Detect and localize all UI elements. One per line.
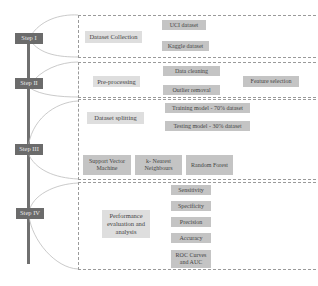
svm-box: Support Vector Machine xyxy=(83,155,131,175)
testing-model-box: Testing model - 30% dataset xyxy=(165,121,250,131)
feature-selection-box: Feature selection xyxy=(243,76,299,87)
roc-auc-box: ROC Curves and AUC xyxy=(171,250,211,268)
pre-processing-box: Pre-processing xyxy=(93,76,140,87)
dataset-splitting-box: Dataset splitting xyxy=(87,112,144,124)
step-3-label: Step III xyxy=(15,144,43,155)
performance-evaluation-box: Performance evaluation and analysis xyxy=(102,210,150,238)
specificity-box: Specificity xyxy=(171,201,211,211)
uci-dataset-box: UCI dataset xyxy=(162,20,206,30)
kaggle-dataset-box: Kaggle dataset xyxy=(162,41,209,51)
precision-box: Precision xyxy=(171,217,211,227)
dataset-collection-box: Dataset Collection xyxy=(85,31,142,43)
data-cleaning-box: Data cleaning xyxy=(163,66,220,76)
step-2-label: Step II xyxy=(15,78,43,89)
training-model-box: Training model - 70% dataset xyxy=(165,103,250,113)
knn-box: k- Nearest Neighbours xyxy=(135,155,182,175)
accuracy-box: Accuracy xyxy=(171,233,211,243)
sensitivity-box: Sensitivity xyxy=(171,185,211,195)
step-4-label: Step IV xyxy=(16,208,44,219)
outlier-removal-box: Outlier removal xyxy=(163,85,220,95)
step-1-label: Step I xyxy=(15,33,43,44)
random-forest-box: Random Forest xyxy=(186,155,233,175)
